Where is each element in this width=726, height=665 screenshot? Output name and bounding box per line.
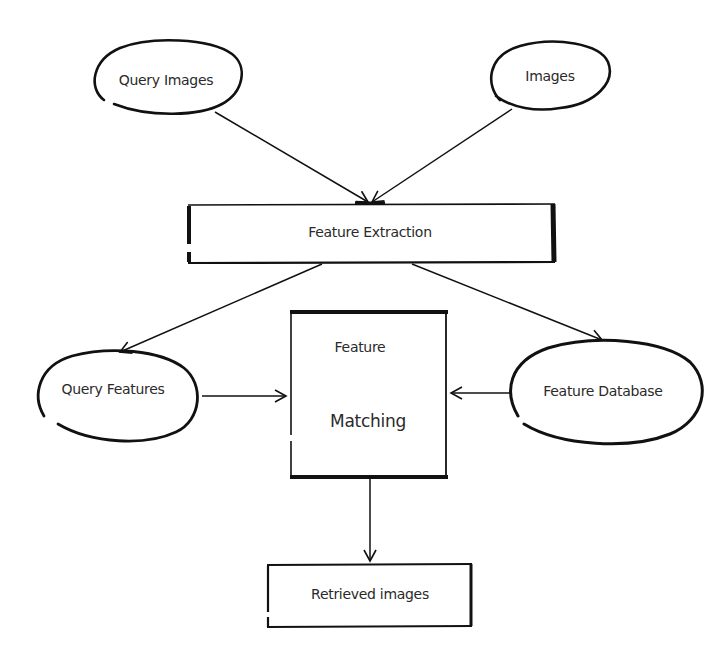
edge-query-images-to-extraction	[215, 112, 368, 202]
diagram-canvas	[0, 0, 726, 665]
query-images-label: Query Images	[119, 72, 214, 88]
feature-matching-node	[290, 312, 448, 477]
images-label: Images	[525, 68, 574, 84]
edge-images-to-extraction	[372, 109, 512, 202]
edge-extraction-to-feature-database	[412, 264, 602, 340]
feature-extraction-label: Feature Extraction	[308, 224, 431, 240]
feature-matching-label-top: Feature	[335, 339, 386, 355]
feature-matching-label-bottom: Matching	[330, 411, 406, 431]
feature-database-label: Feature Database	[543, 383, 662, 399]
retrieved-images-label: Retrieved images	[311, 586, 429, 602]
query-features-label: Query Features	[62, 381, 165, 397]
